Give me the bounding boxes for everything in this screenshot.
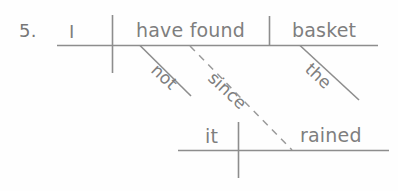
word-subordinate-subject: it — [205, 125, 218, 147]
sentence-diagram-canvas: 5. I have found basket not the since it … — [0, 0, 398, 191]
word-verb: have found — [136, 19, 245, 41]
exercise-number: 5. — [19, 20, 37, 41]
word-subject: I — [69, 21, 75, 42]
word-subordinate-verb: rained — [300, 124, 362, 146]
word-direct-object: basket — [292, 19, 356, 41]
